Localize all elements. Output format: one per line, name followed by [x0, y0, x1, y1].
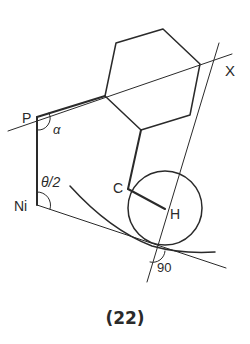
- geometry-diagram: P α θ/2 Ni C H X 90 (22): [0, 0, 250, 344]
- figure-caption: (22): [105, 308, 144, 328]
- bond-c-h: [128, 189, 165, 209]
- theta-arc: [37, 192, 51, 209]
- bond-ring-c: [128, 130, 141, 189]
- label-x: X: [225, 62, 235, 79]
- label-alpha: α: [53, 122, 61, 137]
- perpendicular-line: [147, 43, 219, 282]
- hexagon-ring: [105, 29, 200, 130]
- label-ninety: 90: [157, 260, 171, 275]
- label-ni: Ni: [14, 198, 27, 214]
- bond-p-ring: [37, 96, 105, 117]
- label-c: C: [113, 180, 123, 196]
- label-h: H: [170, 206, 180, 222]
- label-theta-half: θ/2: [41, 174, 60, 190]
- label-p: P: [22, 110, 31, 126]
- x-axis-line: [8, 54, 232, 131]
